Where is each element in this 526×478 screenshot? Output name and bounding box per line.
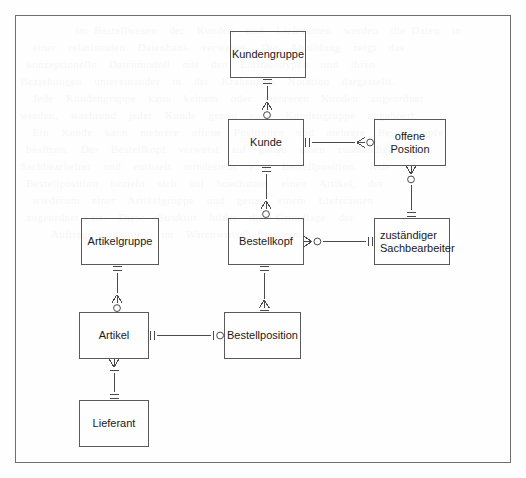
bestellkopf-bestellposition-to-crowsfoot-upper [264, 300, 269, 308]
artikel-lieferant-from-crowsfoot-lower [114, 359, 119, 367]
bestellkopf-bestellposition-to-crowsfoot-lower [259, 300, 264, 308]
entity-artikelgruppe[interactable]: Artikelgruppe [81, 218, 159, 265]
entity-label: Lieferant [93, 417, 136, 430]
bestellkopf-sachbearbeiter-from-optional-circle [314, 238, 321, 245]
entity-kunde[interactable]: Kunde [228, 119, 304, 166]
entity-kundengruppe[interactable]: Kundengruppe [230, 31, 306, 78]
entity-label: Bestellkopf [239, 235, 293, 248]
offene-position-sachbearbeiter-from-optional-circle [408, 176, 415, 183]
entity-lieferant[interactable]: Lieferant [79, 400, 149, 447]
kunde-bestellkopf-to-optional-circle [263, 211, 270, 218]
kundengruppe-kunde-to-optional-circle [264, 112, 271, 119]
entity-label: zuständiger Sachbearbeiter [380, 229, 455, 255]
artikelgruppe-artikel-to-crowsfoot-upper [117, 295, 122, 303]
artikelgruppe-artikel-to-crowsfoot-lower [112, 295, 117, 303]
entity-zustaendiger_sachbearbeiter[interactable]: zuständiger Sachbearbeiter [374, 218, 450, 265]
entity-offene_position[interactable]: offene Position [374, 119, 446, 166]
artikel-bestellposition-to-optional-circle [217, 332, 224, 339]
offene-position-sachbearbeiter-from-crowsfoot-lower [411, 166, 416, 174]
entity-label: offene Position [390, 130, 429, 156]
screenshot-page: im Bestellwesen der Kunden und Lieferant… [0, 0, 526, 478]
kunde-offene-position-to-crowsfoot-upper [357, 138, 365, 143]
kunde-offene-position-to-optional-circle [367, 139, 374, 146]
entity-label: Bestellposition [227, 329, 298, 342]
entity-label: Artikelgruppe [88, 235, 153, 248]
artikelgruppe-artikel-to-optional-circle [114, 305, 121, 312]
entity-label: Kunde [250, 136, 282, 149]
bestellkopf-sachbearbeiter-from-crowsfoot-lower [304, 237, 312, 242]
offene-position-sachbearbeiter-from-crowsfoot-upper [406, 166, 411, 174]
kundengruppe-kunde-to-crowsfoot-upper [267, 102, 272, 110]
artikel-lieferant-from-crowsfoot-upper [109, 359, 114, 367]
kunde-bestellkopf-to-crowsfoot-upper [266, 201, 271, 209]
kunde-bestellkopf-to-crowsfoot-lower [261, 201, 266, 209]
entity-label: Artikel [99, 329, 130, 342]
entity-bestellkopf[interactable]: Bestellkopf [228, 218, 304, 265]
entity-bestellposition[interactable]: Bestellposition [224, 312, 301, 359]
entity-artikel[interactable]: Artikel [79, 312, 149, 359]
kunde-offene-position-to-crowsfoot-lower [357, 143, 365, 148]
bestellkopf-sachbearbeiter-from-crowsfoot-upper [304, 242, 312, 247]
entity-label: Kundengruppe [232, 48, 304, 61]
kundengruppe-kunde-to-crowsfoot-lower [262, 102, 267, 110]
